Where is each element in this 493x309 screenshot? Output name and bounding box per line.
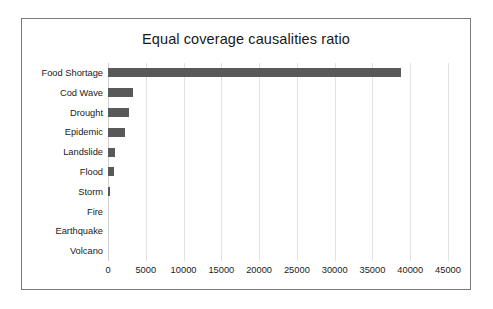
- x-tick-label: 20000: [246, 265, 272, 275]
- x-tick-label: 15000: [208, 265, 234, 275]
- category-label: Earthquake: [55, 226, 103, 236]
- bar-row: [108, 142, 448, 162]
- x-tick-label: 35000: [360, 265, 386, 275]
- x-tick-label: 5000: [135, 265, 156, 275]
- bar: [108, 128, 125, 137]
- bar-row: [108, 83, 448, 103]
- bar: [108, 108, 129, 117]
- bar-row: [108, 122, 448, 142]
- category-label: Cod Wave: [60, 88, 103, 98]
- bar: [108, 148, 115, 157]
- chart-title: Equal coverage causalities ratio: [22, 31, 470, 47]
- bar-row: [108, 182, 448, 202]
- x-tick-label: 45000: [435, 265, 461, 275]
- bar-row: [108, 241, 448, 261]
- category-label: Food Shortage: [41, 68, 103, 78]
- category-label: Flood: [80, 167, 103, 177]
- bar-series: [108, 63, 448, 261]
- bar: [108, 167, 114, 176]
- bar-row: [108, 202, 448, 222]
- category-label: Landslide: [63, 147, 103, 157]
- gridline-45000: [448, 63, 449, 261]
- bar-row: [108, 103, 448, 123]
- bar: [108, 88, 133, 97]
- x-tick-label: 25000: [284, 265, 310, 275]
- category-axis-labels: Food ShortageCod WaveDroughtEpidemicLand…: [22, 63, 108, 261]
- category-label: Drought: [70, 108, 103, 118]
- category-label: Epidemic: [65, 127, 103, 137]
- x-tick-label: 0: [105, 265, 110, 275]
- x-tick-label: 10000: [171, 265, 197, 275]
- bar-row: [108, 63, 448, 83]
- chart-frame: Equal coverage causalities ratio Food Sh…: [21, 18, 471, 290]
- bar: [108, 187, 110, 196]
- x-tick-label: 30000: [322, 265, 348, 275]
- bar-row: [108, 221, 448, 241]
- bar: [108, 68, 401, 77]
- x-tick-label: 40000: [397, 265, 423, 275]
- plot-area: [108, 63, 448, 261]
- category-label: Fire: [87, 207, 103, 217]
- category-label: Volcano: [70, 246, 103, 256]
- category-label: Storm: [78, 187, 103, 197]
- x-axis-tick-labels: 0500010000150002000025000300003500040000…: [108, 265, 448, 279]
- bar-row: [108, 162, 448, 182]
